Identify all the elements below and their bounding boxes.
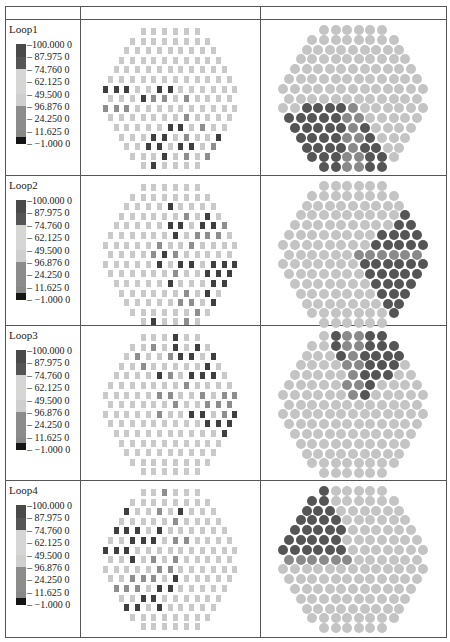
field-circle xyxy=(354,152,364,162)
assembly-square xyxy=(141,95,146,102)
assembly-square xyxy=(168,566,173,573)
field-circle xyxy=(400,419,410,429)
assembly-square xyxy=(108,537,113,544)
field-circle xyxy=(360,279,370,289)
assembly-square xyxy=(162,595,167,602)
field-circle xyxy=(302,351,312,361)
field-circle xyxy=(325,584,335,594)
assembly-square xyxy=(168,585,173,592)
field-circle xyxy=(313,279,323,289)
field-circle xyxy=(319,613,329,623)
assembly-square xyxy=(135,242,140,249)
assembly-square xyxy=(151,420,156,427)
field-circle xyxy=(331,400,341,410)
field-circle xyxy=(342,191,352,201)
legend-band xyxy=(16,94,26,106)
assembly-square xyxy=(130,134,135,141)
field-circle xyxy=(365,35,375,45)
field-circle xyxy=(336,299,346,309)
field-circle xyxy=(371,123,381,133)
field-circle xyxy=(302,449,312,459)
field-circle xyxy=(342,496,352,506)
field-circle xyxy=(389,74,399,84)
assembly-square xyxy=(119,382,124,389)
field-circle xyxy=(348,429,358,439)
field-circle xyxy=(313,299,323,309)
field-circle xyxy=(284,74,294,84)
field-circle xyxy=(319,574,329,584)
field-circle xyxy=(383,240,393,250)
assembly-square xyxy=(151,556,156,563)
field-circle xyxy=(418,564,428,574)
field-circle xyxy=(319,113,329,123)
assembly-square xyxy=(173,270,178,277)
field-circle xyxy=(360,103,370,113)
loop-label: Loop2 xyxy=(9,179,38,191)
assembly-square xyxy=(146,508,151,515)
assembly-square xyxy=(114,392,119,399)
legend-band xyxy=(16,293,26,300)
color-legend: –100.000 0– 87.975 0– 74.760 0– 62.125 0… xyxy=(16,200,86,305)
assembly-square xyxy=(146,143,151,150)
assembly-square xyxy=(146,353,151,360)
assembly-square xyxy=(222,372,227,379)
legend-tick-label: – 24.250 0 xyxy=(27,269,72,281)
field-circle xyxy=(307,54,317,64)
assembly-square xyxy=(141,162,146,169)
assembly-square xyxy=(130,459,135,466)
field-circle xyxy=(336,259,346,269)
assembly-square xyxy=(135,124,140,131)
field-circle xyxy=(371,449,381,459)
field-circle xyxy=(371,584,381,594)
assembly-square xyxy=(195,309,200,316)
assembly-square xyxy=(178,143,183,150)
field-circle xyxy=(319,341,329,351)
circle-map-cell xyxy=(261,326,447,481)
field-circle xyxy=(336,564,346,574)
square-assembly-map xyxy=(81,176,260,325)
field-circle xyxy=(307,191,317,201)
assembly-square xyxy=(162,270,167,277)
field-circle xyxy=(284,400,294,410)
field-circle xyxy=(319,250,329,260)
square-assembly-map xyxy=(81,481,260,637)
field-circle xyxy=(400,113,410,123)
circle-field-map xyxy=(261,481,446,637)
legend-tick-label: – 87.975 0 xyxy=(27,512,72,524)
field-circle xyxy=(371,370,381,380)
field-circle xyxy=(354,555,364,565)
assembly-square xyxy=(130,518,135,525)
assembly-square xyxy=(162,459,167,466)
field-circle xyxy=(389,250,399,260)
field-circle xyxy=(360,299,370,309)
field-circle xyxy=(348,584,358,594)
field-circle xyxy=(307,308,317,318)
field-circle xyxy=(354,289,364,299)
assembly-square xyxy=(141,518,146,525)
assembly-square xyxy=(211,547,216,554)
field-circle xyxy=(354,74,364,84)
assembly-square xyxy=(195,623,200,630)
assembly-square xyxy=(135,604,140,611)
legend-band xyxy=(16,213,26,225)
field-circle xyxy=(365,623,375,633)
field-circle xyxy=(302,84,312,94)
assembly-square xyxy=(135,411,140,418)
assembly-square xyxy=(124,604,129,611)
field-circle xyxy=(336,143,346,153)
field-circle xyxy=(377,331,387,341)
assembly-square xyxy=(151,401,156,408)
assembly-square xyxy=(162,518,167,525)
field-circle xyxy=(336,45,346,55)
field-circle xyxy=(365,458,375,468)
assembly-square xyxy=(146,527,151,534)
field-circle xyxy=(319,133,329,143)
field-circle xyxy=(290,409,300,419)
field-circle xyxy=(331,458,341,468)
assembly-square xyxy=(124,143,129,150)
assembly-square xyxy=(184,382,189,389)
assembly-square xyxy=(146,242,151,249)
field-circle xyxy=(336,220,346,230)
assembly-square xyxy=(216,290,221,297)
assembly-square xyxy=(162,95,167,102)
